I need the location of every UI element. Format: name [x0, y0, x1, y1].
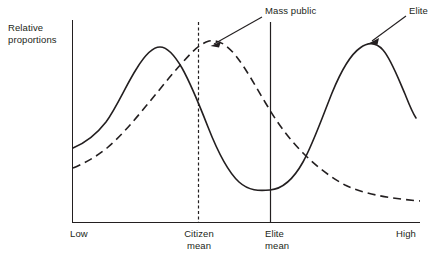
- elite-leader-line: [372, 16, 406, 41]
- y-axis-label: Relative proportions: [8, 22, 57, 45]
- x-tick-label-elite-mean-line1: Elite: [265, 228, 289, 240]
- y-axis-label-line2: proportions: [8, 34, 57, 46]
- chart-figure: Relative proportions Low Citizen mean El…: [0, 0, 437, 269]
- mass-public-leader-line: [214, 17, 262, 44]
- x-tick-label-elite-mean: Elite mean: [265, 228, 289, 251]
- annotation-label-elite: Elite: [409, 5, 428, 17]
- x-tick-label-citizen-mean: Citizen mean: [176, 228, 222, 251]
- y-axis-label-line1: Relative: [8, 22, 57, 34]
- x-tick-label-low: Low: [70, 228, 88, 240]
- x-tick-label-high: High: [396, 228, 416, 240]
- elite-arrowhead: [369, 38, 380, 45]
- x-tick-label-elite-mean-line2: mean: [265, 240, 289, 252]
- x-tick-label-citizen-mean-line2: mean: [176, 240, 222, 252]
- x-tick-label-citizen-mean-line1: Citizen: [176, 228, 222, 240]
- annotation-label-mass-public: Mass public: [265, 5, 316, 17]
- series-mass-public-curve: [73, 41, 420, 201]
- series-elite-curve: [73, 44, 416, 191]
